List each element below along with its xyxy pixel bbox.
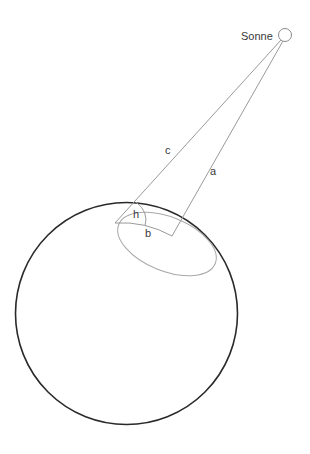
horizon-ellipse	[109, 199, 226, 288]
label-a: a	[210, 165, 217, 177]
sun-label: Sonne	[241, 30, 273, 42]
label-b: b	[145, 227, 151, 239]
diagram-canvas: Sonne c a h b	[0, 0, 310, 454]
label-h: h	[133, 208, 139, 220]
arc-b	[115, 223, 172, 236]
line-c	[115, 40, 281, 223]
label-c: c	[165, 144, 171, 156]
line-a	[172, 41, 283, 236]
sun-circle	[279, 29, 292, 42]
